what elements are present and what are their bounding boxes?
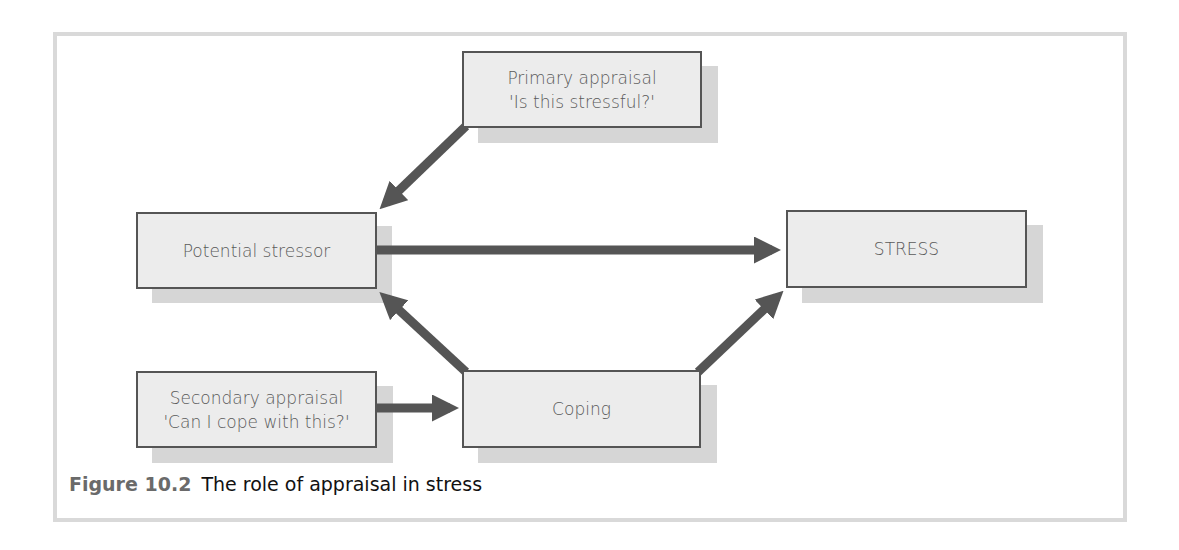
primary-appraisal-box: Primary appraisal 'Is this stressful?' [462,51,702,128]
arrow-coping-to-stress [698,297,777,372]
potential-stressor-label: Potential stressor [183,239,331,263]
secondary-appraisal-title: Secondary appraisal [170,386,344,410]
coping-label: Coping [552,397,611,421]
coping-box: Coping [462,370,701,448]
secondary-appraisal-question: 'Can I cope with this?' [163,410,349,434]
stress-label: STRESS [874,237,939,261]
stress-box: STRESS [786,210,1027,288]
secondary-appraisal-box: Secondary appraisal 'Can I cope with thi… [136,371,377,448]
figure-caption: Figure 10.2The role of appraisal in stre… [69,473,482,495]
arrow-coping-to-stressor [386,298,466,372]
primary-appraisal-question: 'Is this stressful?' [509,90,655,114]
figure-title: The role of appraisal in stress [201,473,482,495]
primary-appraisal-title: Primary appraisal [507,66,656,90]
potential-stressor-box: Potential stressor [136,212,377,289]
arrow-primary-to-stressor [386,126,466,203]
figure-number: Figure 10.2 [69,473,191,495]
